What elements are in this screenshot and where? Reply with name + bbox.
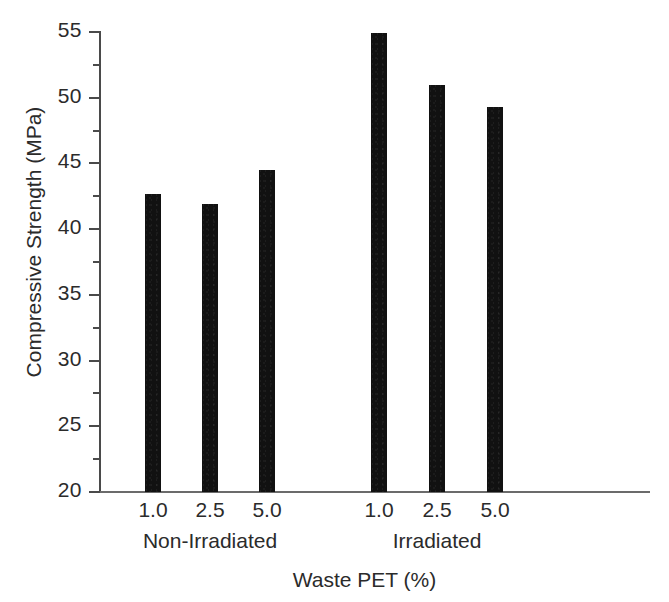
y-axis-minor-tick — [93, 458, 100, 460]
y-axis-major-tick — [89, 491, 100, 493]
y-axis-major-tick — [89, 425, 100, 427]
y-axis-minor-tick — [93, 392, 100, 394]
x-axis-tick-label: 5.0 — [252, 498, 281, 522]
x-axis-tick-label: 1.0 — [138, 498, 167, 522]
bar-chart-figure: Compressive Strength (MPa) 2025303540455… — [0, 0, 669, 602]
y-axis-minor-tick — [93, 130, 100, 132]
y-axis-major-tick — [89, 97, 100, 99]
bar — [145, 194, 161, 492]
y-axis-tick-label: 30 — [58, 347, 82, 371]
y-axis-major-tick — [89, 162, 100, 164]
y-axis-tick-labels: 2025303540455055 — [0, 0, 82, 602]
y-axis-minor-tick — [93, 261, 100, 263]
x-axis-title: Waste PET (%) — [233, 568, 437, 591]
y-axis-major-tick — [89, 360, 100, 362]
y-axis-tick-label: 55 — [58, 18, 82, 42]
x-axis-group-label: Irradiated — [393, 529, 482, 553]
bar — [259, 170, 275, 492]
y-axis-tick-label: 35 — [58, 281, 82, 305]
bar — [487, 107, 503, 492]
y-axis-tick-label: 50 — [58, 84, 82, 108]
x-axis-tick-label: 2.5 — [422, 498, 451, 522]
y-axis-tick-label: 20 — [58, 478, 82, 502]
bar — [202, 204, 218, 492]
y-axis-major-tick — [89, 31, 100, 33]
x-axis-tick-label: 1.0 — [364, 498, 393, 522]
bar — [429, 85, 445, 492]
bar — [371, 33, 387, 492]
y-axis-minor-tick — [93, 327, 100, 329]
y-axis-major-tick — [89, 228, 100, 230]
y-axis-tick-label: 25 — [58, 412, 82, 436]
y-axis-minor-tick — [93, 64, 100, 66]
x-axis-title-wrapper: Waste PET (%) — [0, 568, 669, 592]
y-axis-major-tick — [89, 294, 100, 296]
x-axis-tick-label: 5.0 — [480, 498, 509, 522]
x-axis-group-label: Non-Irradiated — [143, 529, 277, 553]
y-axis-minor-tick — [93, 195, 100, 197]
y-axis-tick-label: 40 — [58, 215, 82, 239]
y-axis-tick-label: 45 — [58, 149, 82, 173]
x-axis-tick-label: 2.5 — [195, 498, 224, 522]
